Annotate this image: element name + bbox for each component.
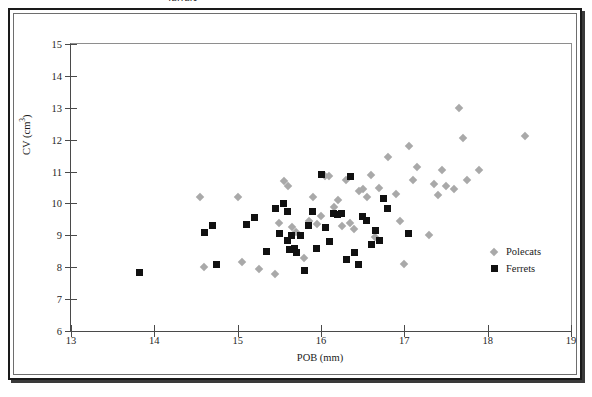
x-axis-tick-label: 19 bbox=[566, 335, 577, 346]
x-axis-title: POB (mm) bbox=[70, 352, 570, 363]
screenshot-page: ferrets. CV (cm3) 6789101112131415131415… bbox=[0, 0, 592, 397]
data-point-ferrets bbox=[293, 249, 300, 256]
data-point-polecats bbox=[254, 265, 262, 273]
data-point-ferrets bbox=[376, 237, 383, 244]
data-point-polecats bbox=[200, 263, 208, 271]
x-axis-tick-label: 15 bbox=[232, 335, 243, 346]
x-axis-tick-label: 14 bbox=[149, 335, 160, 346]
y-axis-tick-label: 11 bbox=[52, 166, 62, 177]
data-point-ferrets bbox=[355, 261, 362, 268]
data-point-ferrets bbox=[384, 205, 391, 212]
data-point-ferrets bbox=[297, 232, 304, 239]
data-point-polecats bbox=[271, 269, 279, 277]
data-point-polecats bbox=[475, 166, 483, 174]
legend-label-ferrets: Ferrets bbox=[506, 263, 535, 274]
diamond-icon bbox=[487, 249, 501, 255]
data-point-ferrets bbox=[251, 214, 258, 221]
data-point-ferrets bbox=[272, 205, 279, 212]
data-point-ferrets bbox=[301, 267, 308, 274]
data-point-ferrets bbox=[288, 232, 295, 239]
data-point-polecats bbox=[196, 193, 204, 201]
data-point-polecats bbox=[404, 142, 412, 150]
plot-area: 678910111213141513141516171819 bbox=[70, 43, 572, 332]
y-axis-tick-label: 7 bbox=[57, 294, 62, 305]
scatter-chart: CV (cm3) 678910111213141513141516171819 … bbox=[0, 0, 592, 397]
data-point-polecats bbox=[308, 193, 316, 201]
y-axis-tick bbox=[65, 235, 77, 236]
data-point-ferrets bbox=[209, 222, 216, 229]
legend-item-polecats: Polecats bbox=[487, 243, 541, 260]
data-point-polecats bbox=[300, 253, 308, 261]
y-axis-tick bbox=[65, 140, 77, 141]
data-point-polecats bbox=[367, 170, 375, 178]
data-point-polecats bbox=[521, 132, 529, 140]
data-point-ferrets bbox=[363, 217, 370, 224]
data-point-polecats bbox=[350, 225, 358, 233]
data-point-ferrets bbox=[318, 171, 325, 178]
data-point-ferrets bbox=[313, 245, 320, 252]
y-axis-tick-label: 9 bbox=[57, 230, 62, 241]
y-axis-tick bbox=[65, 76, 77, 77]
data-point-polecats bbox=[363, 193, 371, 201]
y-axis-tick bbox=[65, 267, 77, 268]
y-axis-tick-label: 13 bbox=[52, 102, 63, 113]
x-axis-tick-label: 18 bbox=[482, 335, 493, 346]
y-axis-tick bbox=[65, 172, 77, 173]
data-point-polecats bbox=[463, 175, 471, 183]
data-point-ferrets bbox=[263, 248, 270, 255]
data-point-polecats bbox=[400, 260, 408, 268]
data-point-polecats bbox=[392, 190, 400, 198]
data-point-ferrets bbox=[280, 200, 287, 207]
data-point-ferrets bbox=[368, 241, 375, 248]
y-axis-tick-label: 6 bbox=[57, 326, 62, 337]
x-axis-tick-label: 13 bbox=[66, 335, 77, 346]
data-point-polecats bbox=[233, 193, 241, 201]
data-point-polecats bbox=[429, 180, 437, 188]
x-axis-tick-label: 17 bbox=[399, 335, 410, 346]
data-point-polecats bbox=[375, 183, 383, 191]
y-axis-tick-label: 14 bbox=[52, 70, 63, 81]
data-point-polecats bbox=[313, 220, 321, 228]
data-point-ferrets bbox=[405, 230, 412, 237]
data-point-ferrets bbox=[351, 249, 358, 256]
data-point-polecats bbox=[325, 172, 333, 180]
data-point-polecats bbox=[413, 163, 421, 171]
data-point-ferrets bbox=[372, 227, 379, 234]
data-point-polecats bbox=[458, 134, 466, 142]
square-icon bbox=[487, 265, 501, 272]
data-point-ferrets bbox=[380, 195, 387, 202]
data-point-ferrets bbox=[201, 229, 208, 236]
y-axis-tick-label: 15 bbox=[52, 39, 63, 50]
data-point-polecats bbox=[396, 217, 404, 225]
data-point-ferrets bbox=[322, 224, 329, 231]
data-point-polecats bbox=[238, 258, 246, 266]
data-point-ferrets bbox=[338, 210, 345, 217]
data-point-polecats bbox=[454, 104, 462, 112]
data-point-polecats bbox=[425, 231, 433, 239]
data-point-ferrets bbox=[326, 238, 333, 245]
y-axis-tick-label: 12 bbox=[52, 134, 63, 145]
y-axis-tick bbox=[65, 108, 77, 109]
data-point-ferrets bbox=[309, 208, 316, 215]
legend-item-ferrets: Ferrets bbox=[487, 260, 541, 277]
chart-legend: Polecats Ferrets bbox=[487, 243, 541, 277]
data-point-ferrets bbox=[243, 221, 250, 228]
data-point-ferrets bbox=[136, 269, 143, 276]
data-point-ferrets bbox=[305, 222, 312, 229]
data-point-polecats bbox=[408, 175, 416, 183]
x-axis-tick-label: 16 bbox=[316, 335, 327, 346]
y-axis-title: CV (cm3) bbox=[18, 114, 32, 155]
data-point-ferrets bbox=[343, 256, 350, 263]
data-point-polecats bbox=[275, 218, 283, 226]
data-point-polecats bbox=[317, 212, 325, 220]
y-axis-tick bbox=[65, 299, 77, 300]
data-point-ferrets bbox=[284, 208, 291, 215]
y-axis-tick bbox=[65, 44, 77, 45]
data-point-polecats bbox=[438, 166, 446, 174]
y-axis-tick bbox=[65, 203, 77, 204]
data-point-polecats bbox=[450, 185, 458, 193]
y-axis-tick-label: 10 bbox=[52, 198, 63, 209]
y-axis-tick-label: 8 bbox=[57, 262, 62, 273]
data-point-ferrets bbox=[276, 230, 283, 237]
data-point-ferrets bbox=[347, 173, 354, 180]
